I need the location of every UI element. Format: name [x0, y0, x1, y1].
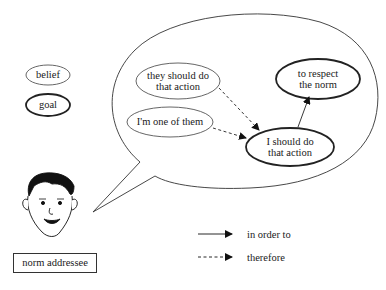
node-they-should-label: they should do that action — [136, 70, 220, 92]
therefore-label: therefore — [247, 252, 285, 263]
node-i-should-line1: I should do — [246, 136, 334, 147]
node-respect-norm-line2: the norm — [276, 79, 360, 90]
node-i-should-label: I should do that action — [246, 136, 334, 158]
node-i-should-line2: that action — [246, 147, 334, 158]
node-they-should-line1: they should do — [136, 70, 220, 81]
node-they-should-line2: that action — [136, 81, 220, 92]
in-order-to-label: in order to — [247, 229, 291, 240]
node-one-of-them-label: I'm one of them — [127, 116, 213, 127]
face-icon — [23, 173, 78, 237]
belief-legend-label: belief — [26, 69, 70, 80]
node-respect-norm-label: to respect the norm — [276, 68, 360, 90]
norm-addressee-label: norm addressee — [13, 253, 97, 273]
goal-legend-label: goal — [26, 99, 70, 110]
node-respect-norm-line1: to respect — [276, 68, 360, 79]
